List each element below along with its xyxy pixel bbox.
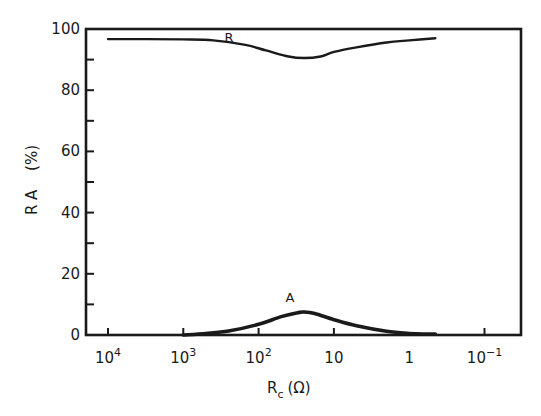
x-axis-sub: c <box>277 388 283 401</box>
y-tick-label: 0 <box>70 326 80 344</box>
plot-frame <box>86 29 521 335</box>
chart: 020406080100 10410310210110−1 RA R A (%)… <box>0 0 541 416</box>
y-tick-label: 40 <box>61 204 80 222</box>
series-r-label: R <box>224 30 233 45</box>
x-axis-title: Rc(Ω) <box>267 379 311 401</box>
y-axis: 020406080100 <box>51 20 94 344</box>
x-tick-label: 10−1 <box>467 346 502 367</box>
x-tick-label: 1 <box>404 349 414 367</box>
y-tick-label: 100 <box>51 20 80 38</box>
x-tick-label: 103 <box>170 346 196 367</box>
y-axis-letters: R A <box>23 189 41 215</box>
y-tick-label: 80 <box>61 81 80 99</box>
series-layer: RA <box>108 30 435 335</box>
y-tick-label: 20 <box>61 265 80 283</box>
x-tick-label: 102 <box>246 346 272 367</box>
x-axis-main: R <box>267 379 277 397</box>
y-axis-unit: (%) <box>23 145 41 171</box>
y-axis-title: R A (%) <box>23 145 41 215</box>
series-a-line <box>183 312 435 335</box>
x-axis-unit: (Ω) <box>288 379 311 397</box>
series-a-label: A <box>286 290 295 305</box>
x-tick-label: 10 <box>324 349 343 367</box>
series-r-line <box>108 38 435 58</box>
x-tick-label: 104 <box>95 346 121 367</box>
y-tick-label: 60 <box>61 142 80 160</box>
